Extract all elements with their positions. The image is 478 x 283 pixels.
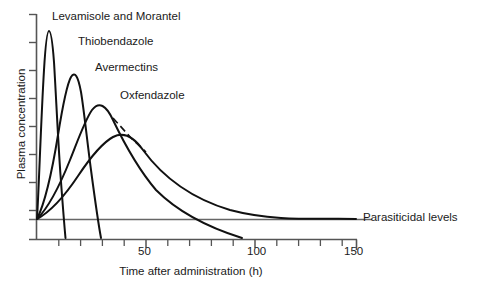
series-label-thiobendazole: Thiobendazole [78, 36, 153, 48]
x-tick-label-100: 100 [247, 246, 266, 258]
x-tick-label-50: 50 [138, 246, 151, 258]
annotation-parasiticidal-levels: Parasiticidal levels [363, 212, 458, 224]
y-axis [29, 14, 37, 239]
chart-figure: Levamisole and Morantel Thiobendazole Av… [0, 0, 478, 283]
x-tick-label-150: 150 [344, 246, 363, 258]
y-axis-title: Plasma concentration [15, 49, 27, 199]
curve-avermectins [37, 105, 242, 238]
series-label-levamisole-and-morantel: Levamisole and Morantel [52, 11, 181, 23]
x-axis-title: Time after administration (h) [0, 265, 382, 277]
series-label-oxfendazole: Oxfendazole [120, 90, 185, 102]
chart-canvas [0, 0, 478, 283]
x-axis [29, 240, 357, 251]
curve-oxfendazole [37, 135, 356, 219]
series-label-avermectins: Avermectins [95, 62, 158, 74]
